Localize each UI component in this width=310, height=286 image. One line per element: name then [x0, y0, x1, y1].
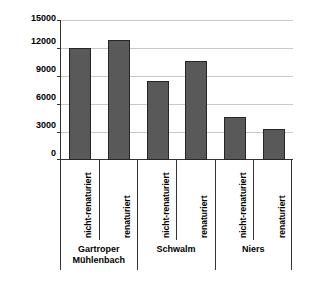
group-label-line: Schwalm: [137, 244, 214, 255]
category-axis: nicht-renaturiertrenaturiertnicht-renatu…: [60, 160, 292, 278]
category-label: nicht-renaturiert: [161, 172, 171, 238]
group-label: Schwalm: [137, 244, 214, 255]
bar: [147, 81, 169, 160]
group-label: GartroperMühlenbach: [60, 244, 137, 266]
category-label: renaturiert: [122, 195, 132, 238]
group-label-line: Gartroper: [60, 244, 137, 255]
y-axis-tick-labels: 15000 12000 9000 6000 3000 0: [20, 13, 56, 167]
y-tick-label: 6000: [20, 92, 56, 102]
group-label-line: Niers: [215, 244, 292, 255]
y-tick-label: 0: [20, 148, 56, 158]
category-label: renaturiert: [277, 195, 287, 238]
bar: [69, 48, 91, 160]
category-separator: [253, 160, 254, 240]
bars-layer: [61, 20, 293, 160]
bar: [108, 40, 130, 160]
plot-area: [60, 20, 292, 160]
group-label-line: Mühlenbach: [60, 255, 137, 266]
bar: [224, 117, 246, 160]
category-separator: [176, 160, 177, 240]
y-tick-label: 12000: [20, 36, 56, 46]
y-tick-label: 15000: [20, 13, 56, 23]
group-label: Niers: [215, 244, 292, 255]
category-label: renaturiert: [199, 195, 209, 238]
category-label: nicht-renaturiert: [83, 172, 93, 238]
y-tick-label: 9000: [20, 64, 56, 74]
category-label: nicht-renaturiert: [238, 172, 248, 238]
bar: [185, 61, 207, 160]
y-tick-label: 3000: [20, 120, 56, 130]
bar-chart: Individuen/ha 15000 12000 9000 6000 3000…: [0, 0, 310, 286]
bar: [263, 129, 285, 161]
category-separator: [99, 160, 100, 240]
